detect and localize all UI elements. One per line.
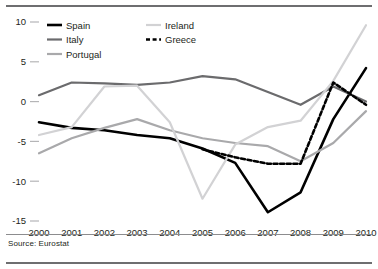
series-line-spain [39,68,366,212]
y-axis: 1050-5-10-15 [12,16,39,226]
legend-label-spain: Spain [66,20,90,31]
x-tick-label: 2004 [159,227,180,238]
line-chart-svg: 1050-5-10-15 200020012002200320042005200… [0,0,378,269]
x-tick-label: 2003 [127,227,148,238]
source-divider-rule [6,234,372,235]
legend-label-italy: Italy [66,34,84,45]
x-tick-label: 2009 [323,227,344,238]
chart-figure: 1050-5-10-15 200020012002200320042005200… [0,0,378,269]
legend-label-ireland: Ireland [165,20,194,31]
y-tick-label: -15 [12,215,26,226]
x-tick-label: 2002 [94,227,115,238]
x-tick-label: 2005 [192,227,213,238]
y-tick-label: 0 [21,96,26,107]
y-tick-label: 10 [15,16,26,27]
legend-label-portugal: Portugal [66,49,101,60]
x-tick-label: 2001 [61,227,82,238]
chart-legend: SpainItalyPortugalIrelandGreece [47,20,196,60]
x-axis: 2000200120022003200420052006200720082009… [28,227,376,238]
source-caption: Source: Eurostat [8,239,69,248]
y-tick-label: 5 [21,56,26,67]
y-tick-label: -10 [12,176,26,187]
x-tick-label: 2010 [355,227,376,238]
legend-label-greece: Greece [165,34,196,45]
x-tick-label: 2007 [257,227,278,238]
x-tick-label: 2006 [225,227,246,238]
y-tick-label: -5 [18,136,26,147]
bottom-divider-rule [6,262,372,264]
x-tick-label: 2000 [28,227,49,238]
x-tick-label: 2008 [290,227,311,238]
